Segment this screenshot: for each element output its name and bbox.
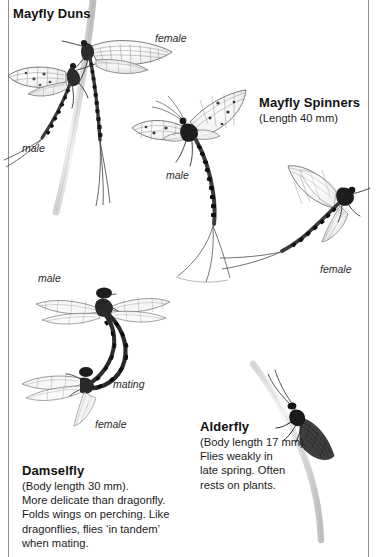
- label-spinner-female: female: [320, 263, 352, 275]
- mayfly-dun-male: [4, 63, 95, 167]
- blurb-alderfly: (Body length 17 mm). Flies weakly in lat…: [200, 435, 330, 492]
- plant-stem-upper: [56, 0, 93, 212]
- heading-alderfly: Alderfly: [200, 419, 249, 434]
- mayfly-dun-female: [62, 40, 172, 206]
- label-spinner-male: male: [166, 169, 189, 181]
- left-margin-rule: [8, 0, 9, 557]
- mayfly-spinner-female: [220, 166, 370, 269]
- mayfly-spinner-male: [132, 90, 246, 282]
- subline-mayfly-spinners-length: (Length 40 mm): [259, 111, 338, 125]
- field-guide-page: Mayfly Duns female male Mayfly Spinners …: [0, 0, 384, 557]
- heading-damselfly: Damselfly: [22, 463, 84, 478]
- right-margin-rule: [368, 0, 369, 557]
- blurb-damselfly: (Body length 30 mm). More delicate than …: [22, 479, 202, 550]
- damselfly-mating-pair: [22, 288, 170, 427]
- label-damselfly-mating: mating: [113, 378, 145, 390]
- label-dun-male: male: [22, 142, 45, 154]
- heading-mayfly-spinners: Mayfly Spinners: [259, 95, 360, 110]
- label-dun-female: female: [155, 32, 187, 44]
- heading-mayfly-duns: Mayfly Duns: [13, 6, 91, 21]
- label-damselfly-female: female: [95, 418, 127, 430]
- label-damselfly-male: male: [38, 272, 61, 284]
